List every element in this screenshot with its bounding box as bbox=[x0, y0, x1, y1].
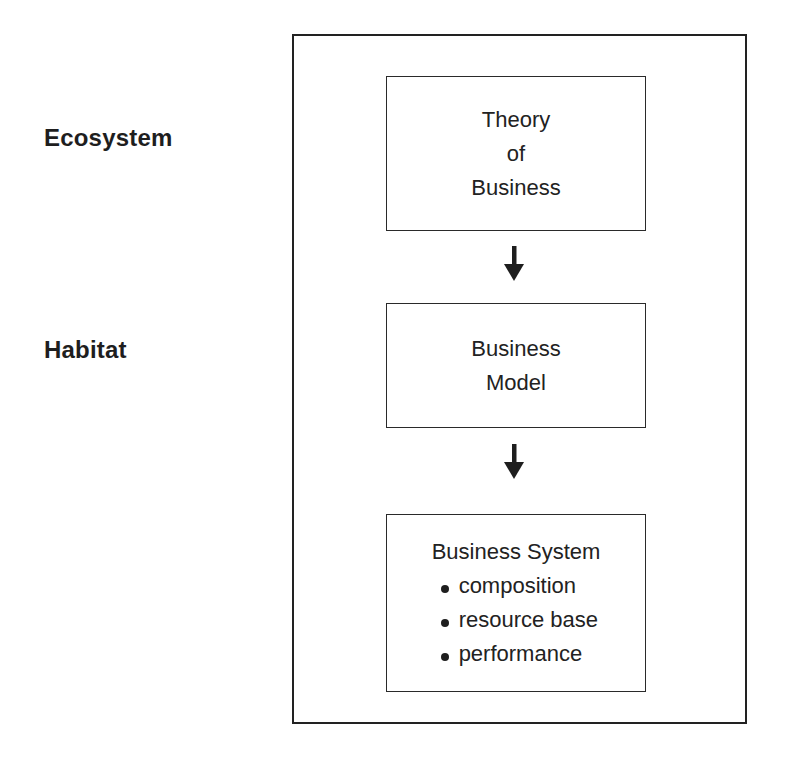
business-system-title: Business System bbox=[432, 535, 601, 569]
down-arrow-icon bbox=[503, 246, 525, 282]
ecosystem-label: Ecosystem bbox=[44, 124, 173, 152]
box-text-line: of bbox=[507, 137, 525, 171]
bullet-item: composition bbox=[441, 569, 601, 603]
box-text-line: Theory bbox=[482, 103, 550, 137]
bullet-text: composition bbox=[459, 569, 576, 603]
bullet-text: resource base bbox=[459, 603, 598, 637]
theory-of-business-box: Theory of Business bbox=[386, 76, 646, 231]
bullet-dot-icon bbox=[441, 585, 449, 593]
business-model-box: Business Model bbox=[386, 303, 646, 428]
bullet-item: performance bbox=[441, 637, 601, 671]
bullet-dot-icon bbox=[441, 653, 449, 661]
box-text-line: Business bbox=[471, 171, 560, 205]
business-system-box: Business System composition resource bas… bbox=[386, 514, 646, 692]
bullet-item: resource base bbox=[441, 603, 601, 637]
business-system-bullets: composition resource base performance bbox=[432, 569, 601, 671]
business-system-content: Business System composition resource bas… bbox=[432, 535, 601, 671]
bullet-dot-icon bbox=[441, 619, 449, 627]
box-text-line: Business bbox=[471, 332, 560, 366]
habitat-label: Habitat bbox=[44, 336, 127, 364]
bullet-text: performance bbox=[459, 637, 583, 671]
down-arrow-icon bbox=[503, 444, 525, 480]
box-text-line: Model bbox=[486, 366, 546, 400]
